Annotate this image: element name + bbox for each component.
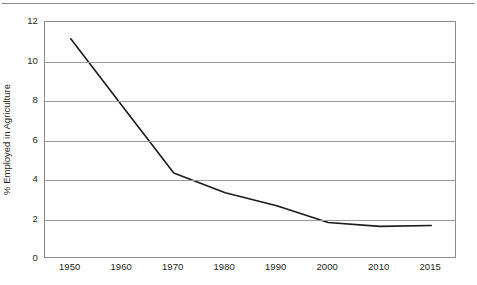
x-axis-tick-labels: 19501960197019801990200020102015 (44, 261, 456, 277)
x-tick-label-1960: 1960 (99, 261, 143, 272)
chart-page: % Employed in Agriculture 121086420 1950… (0, 0, 477, 285)
x-tick-label-1950: 1950 (48, 261, 92, 272)
y-tick-label-12: 12 (4, 16, 38, 26)
y-tick-label-4: 4 (4, 174, 38, 184)
x-tick-label-2000: 2000 (305, 261, 349, 272)
gridline-y-6 (45, 141, 455, 142)
y-tick-label-8: 8 (4, 95, 38, 105)
x-tick-label-2015: 2015 (408, 261, 452, 272)
x-tick-label-1970: 1970 (151, 261, 195, 272)
top-divider-rule (2, 3, 475, 4)
x-tick-label-1980: 1980 (202, 261, 246, 272)
x-tick-label-1990: 1990 (254, 261, 298, 272)
gridline-y-2 (45, 220, 455, 221)
plot-area (44, 21, 456, 258)
y-tick-label-2: 2 (4, 214, 38, 224)
gridline-y-4 (45, 180, 455, 181)
y-tick-label-0: 0 (4, 253, 38, 263)
x-tick-label-2010: 2010 (357, 261, 401, 272)
gridline-y-8 (45, 101, 455, 102)
y-axis-tick-labels: 121086420 (0, 21, 38, 258)
y-tick-label-10: 10 (4, 56, 38, 66)
gridline-y-10 (45, 62, 455, 63)
y-tick-label-6: 6 (4, 135, 38, 145)
